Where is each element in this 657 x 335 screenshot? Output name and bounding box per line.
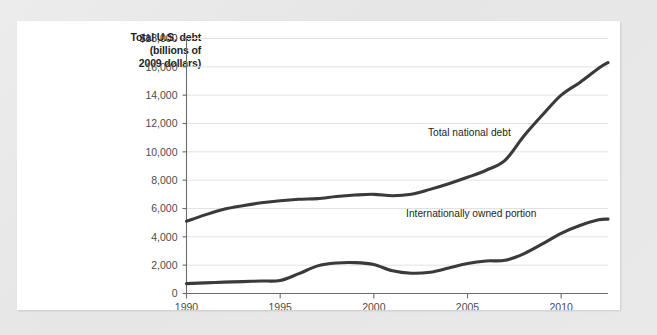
figure-root: Total U.S. debt (billions of 2009 dollar…: [0, 0, 657, 335]
data-series-lines: [187, 63, 609, 284]
series-line: [187, 63, 609, 222]
series-line: [187, 219, 609, 283]
x-axis-tick-labels: 19901995200020052010: [175, 301, 573, 311]
plot-area: 02,0004,0006,0008,00010,00012,00014,0001…: [17, 21, 620, 310]
y-axis-tick-label: 14,000: [145, 89, 177, 101]
y-axis-tick-label: 4,000: [151, 231, 177, 243]
series-label: Total national debt: [428, 127, 511, 138]
x-axis-tick-label: 2000: [362, 301, 386, 311]
x-axis-tick-label: 1990: [175, 301, 199, 311]
y-axis-tick-label: 12,000: [145, 117, 177, 129]
y-axis-tick-label: 10,000: [145, 146, 177, 158]
x-axis-tick-label: 1995: [268, 301, 292, 311]
x-axis-tick-label: 2005: [456, 301, 480, 311]
series-label: Internationally owned portion: [406, 208, 536, 219]
y-axis-tick-label: $18,000: [140, 32, 178, 44]
series-annotations: Total national debtInternationally owned…: [406, 127, 536, 219]
y-axis-tick-label: 8,000: [151, 174, 177, 186]
y-axis-tick-label: 6,000: [151, 202, 177, 214]
y-axis-tick-labels: 02,0004,0006,0008,00010,00012,00014,0001…: [140, 32, 178, 299]
gridlines: [187, 39, 609, 266]
y-axis-tick-label: 0: [172, 287, 178, 299]
y-axis-tick-label: 16,000: [145, 61, 177, 73]
chart-panel: Total U.S. debt (billions of 2009 dollar…: [17, 21, 620, 310]
axes: [183, 39, 609, 299]
x-axis-tick-label: 2010: [549, 301, 573, 311]
line-chart: 02,0004,0006,0008,00010,00012,00014,0001…: [17, 21, 620, 310]
y-axis-tick-label: 2,000: [151, 259, 177, 271]
